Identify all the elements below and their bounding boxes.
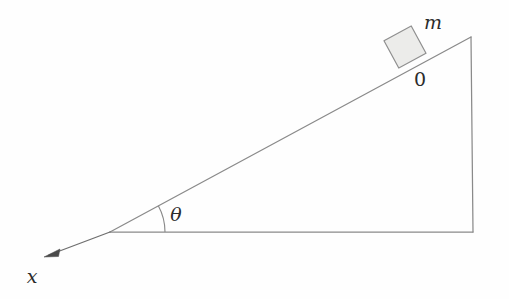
angle-label: θ [170, 203, 182, 225]
incline-surface-line [110, 37, 471, 232]
origin-label: 0 [414, 68, 426, 90]
inclined-plane-diagram: m 0 θ x [0, 0, 509, 299]
figure-canvas: m 0 θ x [0, 0, 509, 299]
angle-arc [158, 206, 165, 232]
mass-block [384, 26, 426, 68]
x-axis-arrowhead-icon [44, 249, 60, 257]
x-axis-label: x [27, 265, 38, 287]
mass-label: m [424, 11, 442, 33]
vertical-side-line [471, 37, 473, 232]
block-group [384, 26, 426, 68]
